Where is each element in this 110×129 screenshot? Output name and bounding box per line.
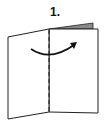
fold-diagram — [0, 0, 110, 129]
left-page — [8, 29, 49, 119]
right-page — [49, 29, 98, 113]
back-page-sliver — [49, 23, 93, 29]
